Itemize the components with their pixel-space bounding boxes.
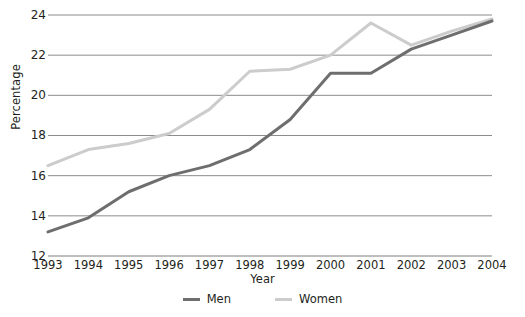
legend-swatch-women-icon	[275, 298, 292, 301]
x-tick-label: 2003	[437, 258, 466, 272]
legend-label-women: Women	[299, 292, 342, 306]
chart-legend: Men Women	[0, 292, 525, 306]
x-tick-label: 2004	[477, 258, 506, 272]
legend-label-men: Men	[207, 292, 231, 306]
legend-item-women: Women	[275, 292, 342, 306]
x-tick-label: 1996	[154, 258, 183, 272]
x-tick-label: 1994	[74, 258, 103, 272]
series-lines	[48, 19, 492, 232]
x-tick-label: 1997	[195, 258, 224, 272]
x-tick-label: 2001	[356, 258, 385, 272]
x-axis-title: Year	[0, 272, 525, 286]
line-chart: Percentage 24 22 20 18 16 14 12 19931994…	[0, 0, 525, 317]
x-tick-label: 2002	[397, 258, 426, 272]
legend-swatch-men-icon	[183, 298, 200, 301]
series-line-men	[48, 21, 492, 232]
x-tick-label: 2000	[316, 258, 345, 272]
x-tick-label: 1993	[33, 258, 62, 272]
x-tick-label: 1995	[114, 258, 143, 272]
series-line-women	[48, 19, 492, 166]
x-tick-label: 1998	[235, 258, 264, 272]
legend-item-men: Men	[183, 292, 231, 306]
x-tick-label: 1999	[276, 258, 305, 272]
